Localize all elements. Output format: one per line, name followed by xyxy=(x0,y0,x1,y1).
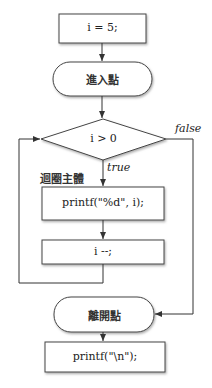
label-newline: printf("\n"); xyxy=(45,350,165,363)
false-branch-line xyxy=(155,139,193,314)
label-condition: i > 0 xyxy=(41,132,166,145)
label-exit: 離開點 xyxy=(54,307,154,323)
label-printf: printf("%d", i); xyxy=(42,196,164,209)
flowchart-canvas xyxy=(0,0,212,388)
label-init: i = 5; xyxy=(59,21,146,34)
label-decrement: i --; xyxy=(42,245,164,258)
false-annotation: false xyxy=(175,122,201,135)
label-entry: 進入點 xyxy=(53,71,152,87)
true-annotation: true xyxy=(107,161,130,174)
loop-body-annotation: 迴圈主體 xyxy=(40,170,84,186)
